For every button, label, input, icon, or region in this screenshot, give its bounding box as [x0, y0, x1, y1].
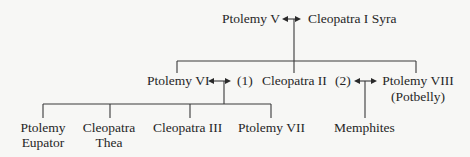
person-cleopatra-i-syra: Cleopatra I Syra — [308, 11, 396, 26]
person-name-line1: Ptolemy — [13, 120, 73, 135]
person-cleopatra-iii: Cleopatra III — [153, 120, 222, 135]
marriage-2-label: (2) — [335, 73, 351, 88]
double-arrow-icon — [208, 78, 231, 84]
double-arrow-icon — [282, 16, 301, 22]
person-name-line2: Eupator — [13, 135, 73, 150]
person-cleopatra-thea: Cleopatra Thea — [78, 120, 140, 150]
person-name-line2: Thea — [78, 135, 140, 150]
person-ptolemy-eupator: Ptolemy Eupator — [13, 120, 73, 150]
person-ptolemy-viii: Ptolemy VIII (Potbelly) — [381, 73, 455, 104]
person-ptolemy-v: Ptolemy V — [222, 11, 280, 26]
person-name: Ptolemy VIII — [381, 73, 455, 88]
person-ptolemy-vi: Ptolemy VI — [147, 73, 209, 88]
person-ptolemy-vii: Ptolemy VII — [238, 120, 305, 135]
person-name-line1: Cleopatra — [78, 120, 140, 135]
person-memphites: Memphites — [334, 120, 395, 135]
marriage-1-label: (1) — [237, 73, 253, 88]
person-cleopatra-ii: Cleopatra II — [262, 73, 327, 88]
person-epithet: (Potbelly) — [381, 89, 455, 104]
